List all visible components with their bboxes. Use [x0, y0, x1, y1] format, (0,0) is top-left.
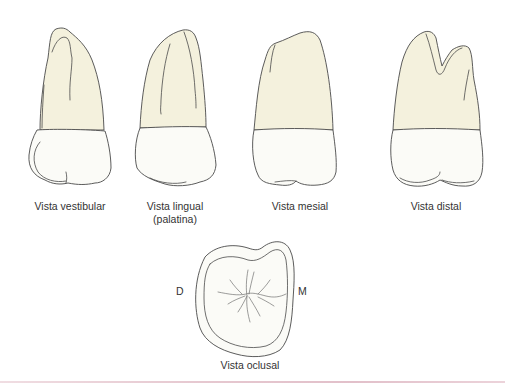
label-vista-vestibular: Vista vestibular [20, 200, 120, 213]
marker-distal: D [176, 285, 184, 297]
tooth-distal-view [391, 31, 483, 186]
tooth-diagram [0, 0, 505, 385]
tooth-vestibular-view [29, 28, 111, 185]
label-vista-lingual: Vista lingual [125, 200, 225, 213]
root-mesial [254, 32, 333, 130]
crown-mesial [253, 129, 337, 186]
root-lingual [140, 30, 206, 128]
marker-mesial: M [298, 285, 307, 297]
label-vista-distal: Vista distal [386, 200, 486, 213]
label-vista-lingual-sub: (palatina) [125, 213, 225, 226]
crown-lingual [135, 127, 216, 186]
label-vista-mesial: Vista mesial [250, 200, 350, 213]
label-vista-oclusal: Vista oclusal [200, 359, 300, 372]
root-vestibular [40, 28, 104, 130]
tooth-lingual-view [135, 30, 216, 186]
tooth-mesial-view [253, 32, 337, 186]
bottom-divider [0, 381, 505, 383]
crown-distal [391, 129, 483, 187]
tooth-occlusal-view [196, 242, 294, 357]
crown-vestibular [29, 129, 111, 184]
